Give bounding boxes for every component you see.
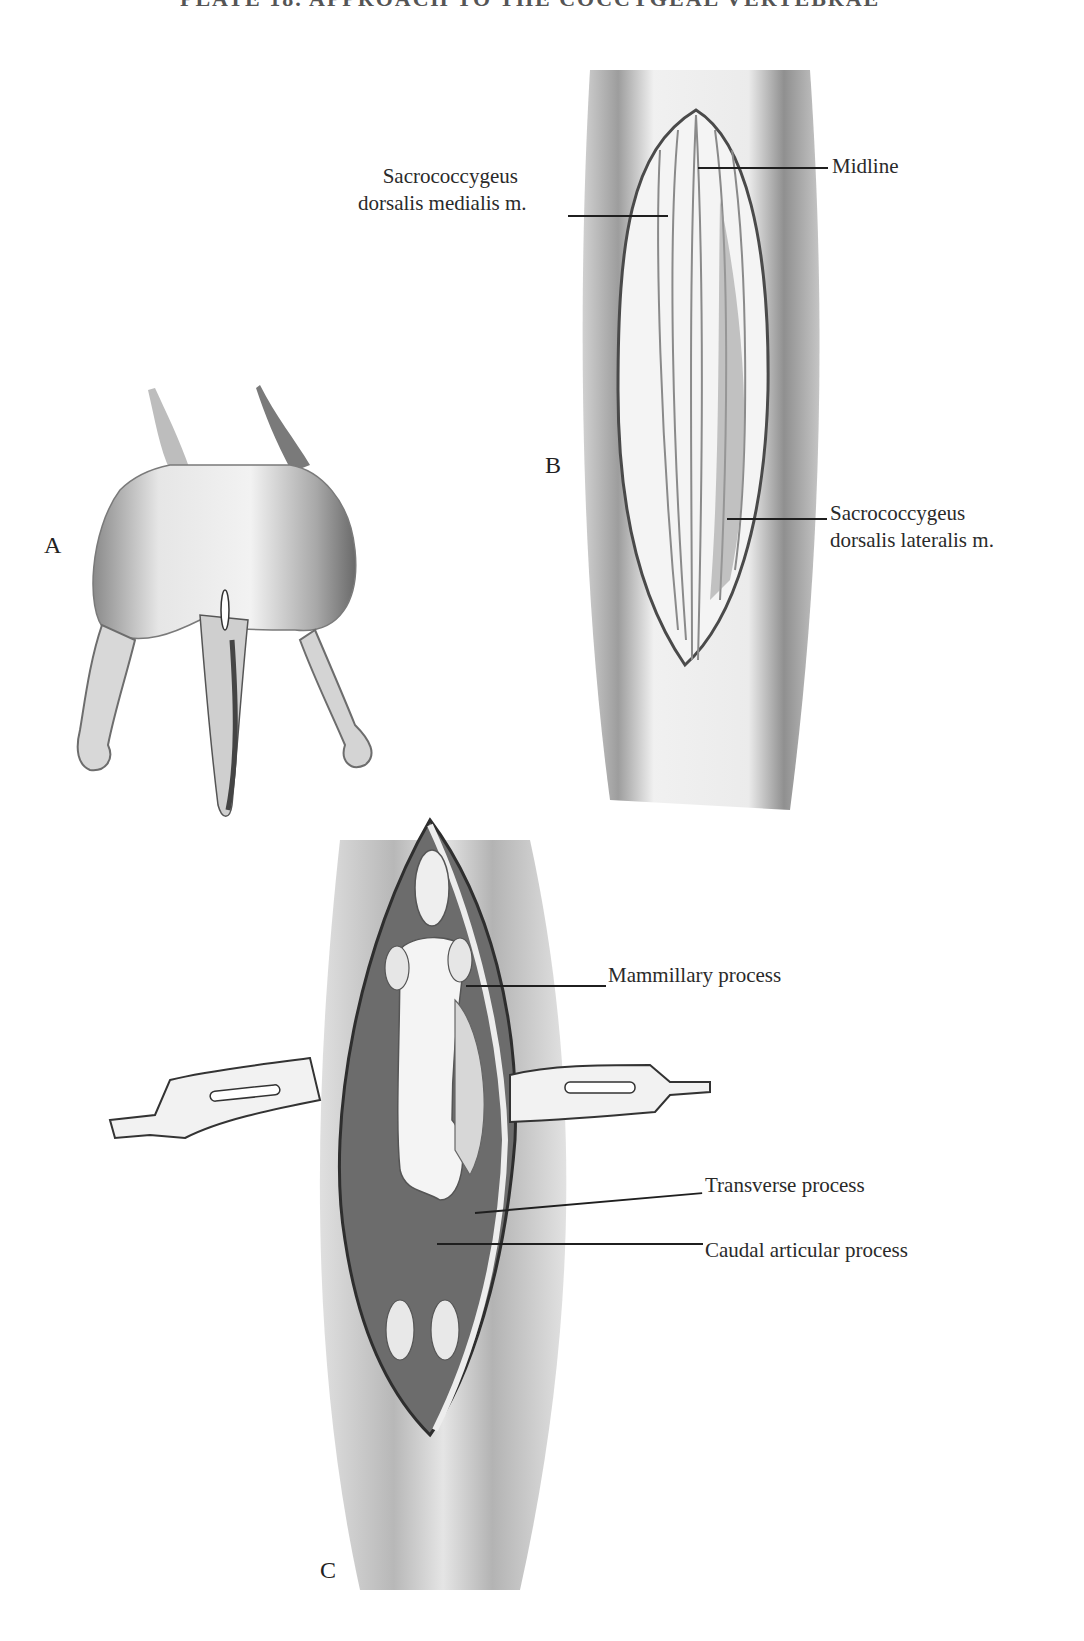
left-retractor [110,1058,320,1138]
figure-a-illustration [60,380,420,840]
leader-line-midline [698,167,828,169]
label-caudal-articular-process: Caudal articular process [705,1237,908,1264]
label-line-2: dorsalis medialis m. [358,190,527,217]
figure-c-illustration [110,820,770,1640]
figure-letter-a: A [44,532,61,559]
incision-mark [221,590,229,630]
label-line-1: Sacrococcygeus [358,163,527,190]
muscle-exposure-drawing [560,40,840,840]
label-sacrococcygeus-medialis: Sacrococcygeus dorsalis medialis m. [358,163,527,217]
figure-b-illustration [560,40,840,840]
label-mammillary-process: Mammillary process [608,962,781,989]
leader-line-caudal [437,1243,703,1245]
dog-hindquarters-drawing [60,380,420,840]
figure-letter-b: B [545,452,561,479]
right-retractor [510,1065,710,1122]
leader-line-lateralis [727,518,827,520]
label-midline: Midline [832,153,899,180]
label-line-1: Sacrococcygeus [830,500,994,527]
leader-line-medialis [568,215,668,217]
figure-letter-c: C [320,1557,336,1584]
vertebra-exposure-drawing [110,820,770,1640]
label-line-2: dorsalis lateralis m. [830,527,994,554]
label-sacrococcygeus-lateralis: Sacrococcygeus dorsalis lateralis m. [830,500,994,554]
plate-title: PLATE 18. APPROACH TO THE COCCYGEAL VERT… [180,0,920,6]
leader-line-mammillary [466,985,606,987]
label-transverse-process: Transverse process [705,1172,865,1199]
